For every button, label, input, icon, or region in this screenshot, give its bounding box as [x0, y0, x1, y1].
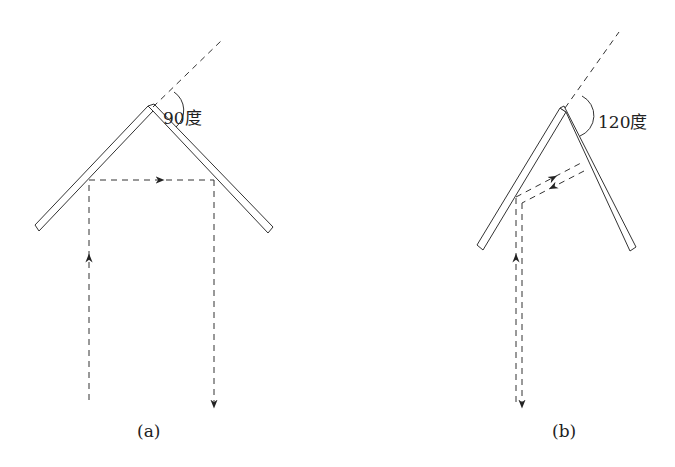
- extension-line-b: [565, 32, 619, 108]
- mirror-diagram: [0, 0, 675, 467]
- panel-b: [477, 32, 636, 404]
- left-mirror-a: [35, 106, 153, 231]
- angle-label-a: 90度: [163, 104, 202, 129]
- caption-a: (a): [137, 421, 160, 441]
- caption-b: (b): [552, 421, 576, 441]
- panel-a: [35, 40, 273, 404]
- slant-ray-out-b: [522, 171, 584, 203]
- extension-line-a: [153, 40, 222, 107]
- angle-arc-b: [580, 96, 594, 136]
- angle-label-b: 120度: [598, 108, 647, 133]
